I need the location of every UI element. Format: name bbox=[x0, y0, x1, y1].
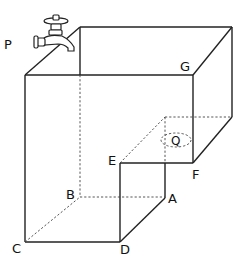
hidden-edges bbox=[25, 75, 232, 242]
hidden-C-B bbox=[25, 197, 80, 242]
faucet-icon bbox=[34, 15, 74, 51]
hidden-E-back bbox=[120, 117, 165, 163]
edge-right-top-diagonal bbox=[193, 27, 232, 75]
label-G: G bbox=[180, 59, 190, 74]
label-A: A bbox=[168, 191, 177, 206]
label-P: P bbox=[4, 37, 12, 52]
edge-F-back bbox=[193, 117, 232, 163]
edge-D-A bbox=[120, 198, 165, 242]
label-F: F bbox=[192, 167, 199, 182]
label-B: B bbox=[66, 187, 75, 202]
label-Q: Q bbox=[171, 134, 180, 148]
visible-edges bbox=[25, 27, 232, 242]
label-D: D bbox=[120, 242, 130, 257]
tank-diagram: P G Q E F B A C D bbox=[0, 0, 250, 269]
label-E: E bbox=[108, 153, 116, 168]
label-C: C bbox=[12, 241, 21, 256]
